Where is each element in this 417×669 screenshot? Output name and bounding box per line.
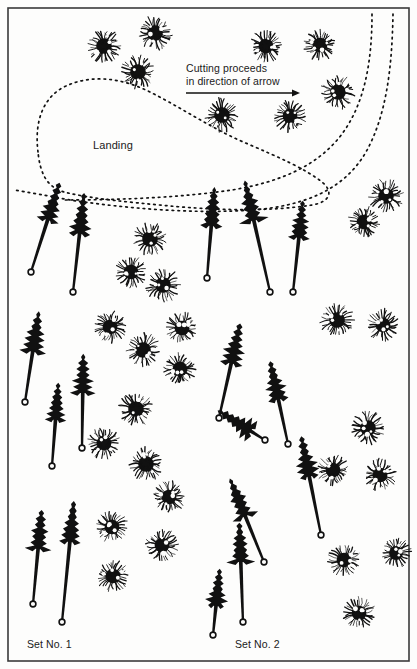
- standing-tree-gap: [373, 478, 378, 483]
- felled-tree-axis: [289, 431, 331, 534]
- standing-tree: [252, 30, 282, 61]
- felled-tree-trunk: [60, 540, 72, 619]
- felled-tree: [209, 398, 269, 448]
- standing-tree-gap: [176, 322, 181, 327]
- felled-tree-crown: [200, 183, 226, 230]
- standing-tree: [88, 428, 119, 459]
- standing-tree: [164, 353, 196, 383]
- felled-tree-crown: [68, 189, 96, 238]
- standing-tree-branch: [320, 29, 321, 41]
- standing-tree: [328, 546, 360, 576]
- felled-tree-trunk: [31, 547, 40, 601]
- diagram-stage: Landing Cutting proceeds in direction of…: [0, 0, 417, 669]
- standing-tree-gap: [270, 46, 273, 49]
- standing-tree-gap: [120, 570, 124, 574]
- felled-tree-group: [12, 174, 331, 638]
- tree-stump: [210, 632, 216, 638]
- standing-tree-gap: [129, 65, 132, 68]
- felled-tree-trunk: [80, 391, 85, 445]
- standing-tree: [119, 394, 152, 424]
- felled-tree-trunk: [50, 418, 57, 463]
- standing-tree-gap: [103, 435, 107, 439]
- standing-tree-gap: [337, 82, 340, 85]
- standing-tree-gap: [294, 111, 297, 114]
- felled-tree-trunk: [205, 224, 213, 275]
- felled-tree-trunk: [307, 474, 322, 532]
- standing-tree-branch: [254, 46, 262, 47]
- standing-tree-gap: [255, 49, 259, 53]
- diagram-canvas: [0, 0, 417, 669]
- standing-tree-branch: [386, 200, 387, 212]
- standing-tree-gap: [224, 116, 227, 119]
- felled-tree-crown: [219, 318, 252, 369]
- standing-tree-branch: [160, 32, 169, 33]
- standing-tree-branch: [146, 469, 147, 479]
- felled-tree-crown: [229, 174, 269, 227]
- standing-tree-gap: [154, 234, 157, 237]
- tree-stump: [285, 441, 291, 447]
- felled-tree-crown: [19, 306, 53, 357]
- standing-tree-gap: [370, 430, 373, 433]
- standing-tree: [146, 269, 181, 302]
- cutting-direction-arrow: [186, 90, 300, 97]
- felled-tree: [52, 497, 85, 625]
- tree-stump: [318, 532, 324, 538]
- standing-tree-gap: [313, 46, 317, 50]
- set-no-1-label: Set No. 1: [27, 638, 72, 650]
- standing-tree-gap: [154, 283, 158, 287]
- standing-tree-gap: [397, 544, 400, 547]
- tree-stump: [79, 445, 85, 451]
- standing-tree-branch: [153, 244, 157, 251]
- felled-tree-trunk: [276, 397, 289, 441]
- set-no-2-label: Set No. 2: [235, 638, 280, 650]
- standing-tree-gap: [216, 111, 219, 114]
- standing-tree-gap: [140, 415, 143, 418]
- standing-tree-gap: [398, 554, 401, 557]
- felled-tree-crown: [216, 470, 259, 524]
- standing-tree: [205, 98, 238, 132]
- standing-tree-gap: [107, 333, 110, 336]
- standing-tree-gap: [148, 351, 152, 355]
- standing-tree-branch: [116, 574, 127, 576]
- felled-tree-trunk: [211, 604, 218, 632]
- standing-tree-gap: [100, 438, 103, 441]
- standing-tree: [383, 538, 412, 566]
- standing-tree: [320, 304, 355, 335]
- standing-tree-branch: [97, 528, 107, 530]
- standing-tree: [274, 101, 305, 133]
- standing-tree-gap: [290, 122, 293, 125]
- standing-tree-gap: [331, 319, 335, 323]
- felled-tree-trunk: [243, 514, 265, 560]
- standing-tree-branch: [154, 18, 155, 28]
- standing-tree-gap: [353, 606, 358, 611]
- standing-tree-gap: [176, 371, 180, 375]
- standing-tree-gap: [102, 530, 106, 534]
- standing-tree-group: [88, 17, 412, 627]
- standing-tree-branch: [322, 323, 332, 329]
- cutting-direction-label-line2: in direction of arrow: [186, 75, 280, 87]
- standing-tree-gap: [133, 68, 136, 71]
- standing-tree-gap: [339, 313, 342, 316]
- standing-tree-gap: [398, 549, 403, 554]
- standing-tree-gap: [148, 32, 153, 37]
- standing-tree-gap: [329, 314, 334, 319]
- standing-tree-gap: [186, 322, 191, 327]
- standing-tree-gap: [108, 40, 112, 44]
- standing-tree-gap: [164, 502, 167, 505]
- felled-tree-axis: [20, 506, 55, 602]
- standing-tree: [154, 481, 184, 512]
- felled-tree-crown: [289, 431, 321, 482]
- standing-tree-gap: [384, 189, 389, 194]
- standing-tree-gap: [337, 329, 340, 332]
- standing-tree-gap: [333, 94, 337, 98]
- standing-tree-gap: [134, 349, 137, 352]
- standing-tree: [97, 512, 127, 541]
- tree-stump: [261, 559, 267, 565]
- felled-tree: [62, 189, 96, 295]
- felled-tree: [69, 351, 96, 451]
- standing-tree: [116, 258, 145, 288]
- felled-tree-axis: [41, 379, 69, 464]
- felled-tree-axis: [69, 351, 96, 445]
- standing-tree-gap: [388, 198, 391, 201]
- felled-tree: [289, 431, 331, 538]
